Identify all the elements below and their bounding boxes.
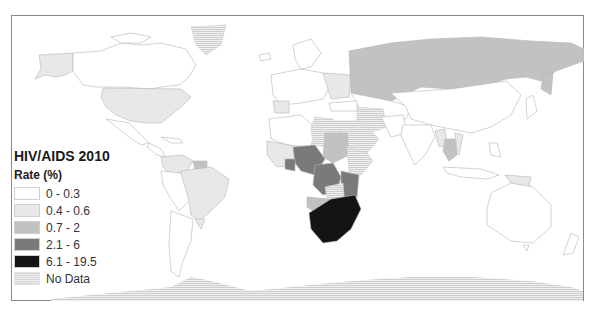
legend-label: 0 - 0.3	[46, 187, 80, 201]
region-brazil	[181, 167, 229, 221]
region-philippines	[489, 143, 501, 157]
legend-label: 2.1 - 6	[46, 238, 80, 252]
legend-item: No Data	[14, 270, 110, 287]
legend-item: 6.1 - 19.5	[14, 253, 110, 270]
region-uruguay	[195, 219, 205, 229]
map-title: HIV/AIDS 2010	[14, 148, 110, 164]
region-sudan	[323, 133, 349, 163]
region-scandinavia	[293, 39, 321, 69]
region-kamchatka	[541, 73, 553, 95]
legend-label: No Data	[46, 272, 90, 286]
region-ivory-coast	[285, 159, 295, 171]
legend-swatch	[14, 204, 40, 217]
region-india	[401, 125, 435, 165]
legend-label: 6.1 - 19.5	[46, 255, 97, 269]
legend-item: 0.4 - 0.6	[14, 202, 110, 219]
region-new-zealand	[563, 233, 579, 255]
region-japan	[526, 95, 537, 119]
region-argentina-chile	[169, 211, 193, 277]
legend-swatch	[14, 238, 40, 251]
legend-label: 0.7 - 2	[46, 221, 80, 235]
region-tasmania	[523, 245, 529, 251]
region-iceland	[259, 53, 271, 61]
region-canada	[73, 43, 196, 89]
region-greenland	[191, 25, 226, 55]
region-indonesia	[443, 167, 499, 179]
legend-swatch	[14, 221, 40, 234]
region-alaska	[35, 53, 73, 79]
legend-swatch-hatched	[14, 272, 40, 285]
region-canada-islands	[111, 33, 151, 43]
legend-item: 0 - 0.3	[14, 185, 110, 202]
legend-swatch	[14, 255, 40, 268]
region-usa	[101, 88, 191, 123]
region-central-america	[147, 143, 165, 157]
region-mexico	[106, 119, 149, 145]
legend-label: 0.4 - 0.6	[46, 204, 90, 218]
legend-subtitle: Rate (%)	[14, 168, 110, 182]
region-north-africa-west	[269, 115, 315, 147]
region-western-europe	[271, 69, 331, 105]
region-iberia	[273, 101, 289, 113]
region-turkey	[329, 101, 357, 111]
region-caribbean	[161, 137, 183, 143]
region-ethiopia-somalia	[347, 147, 373, 175]
legend-item: 2.1 - 6	[14, 236, 110, 253]
region-thailand-cambodia	[443, 139, 457, 161]
map-legend: HIV/AIDS 2010 Rate (%) 0 - 0.3 0.4 - 0.6…	[14, 148, 110, 287]
region-australia	[487, 183, 551, 243]
legend-item: 0.7 - 2	[14, 219, 110, 236]
legend-swatch	[14, 187, 40, 200]
region-eastern-europe	[323, 73, 351, 99]
region-antarctica	[51, 277, 583, 301]
